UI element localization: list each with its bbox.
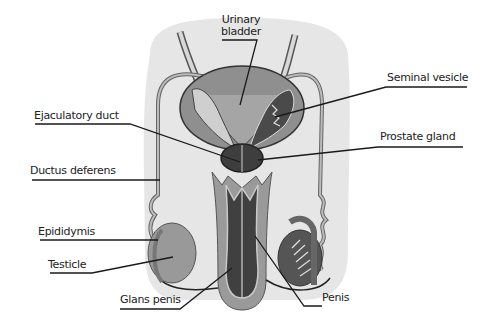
label-glans-penis: Glans penis — [120, 294, 181, 306]
label-ejaculatory-duct: Ejaculatory duct — [34, 110, 119, 122]
reproductive-diagram: Urinary bladder Seminal vesicle Ejaculat… — [0, 0, 493, 327]
label-penis: Penis — [322, 292, 349, 304]
label-prostate-gland: Prostate gland — [380, 131, 455, 143]
urinary-bladder-line2: bladder — [221, 26, 261, 38]
label-urinary-bladder: Urinary bladder — [221, 14, 261, 38]
label-testicle: Testicle — [48, 259, 86, 271]
label-ductus-deferens: Ductus deferens — [30, 165, 116, 177]
label-epididymis: Epididymis — [38, 226, 95, 238]
label-seminal-vesicle: Seminal vesicle — [387, 72, 468, 84]
